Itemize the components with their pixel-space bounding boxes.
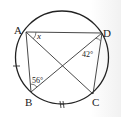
angle-label-x: x [36, 31, 41, 41]
tick-arc-BC-1 [60, 101, 61, 108]
angle-label-42: 42° [82, 50, 93, 59]
circle [16, 11, 109, 104]
point-label-C: C [92, 96, 99, 108]
segment-DC [93, 33, 102, 94]
segment-AB [26, 32, 31, 92]
geometry-figure: A D B C x 42° 56° [0, 0, 121, 117]
angle-arc-42 [96, 38, 101, 41]
circle-diagram: A D B C x 42° 56° [0, 0, 121, 117]
point-label-A: A [14, 24, 22, 36]
angle-arc-x [33, 32, 36, 39]
tick-arc-BC-2 [63, 101, 64, 108]
angle-label-56: 56° [32, 76, 43, 85]
point-label-D: D [103, 27, 111, 39]
point-label-B: B [25, 96, 32, 108]
